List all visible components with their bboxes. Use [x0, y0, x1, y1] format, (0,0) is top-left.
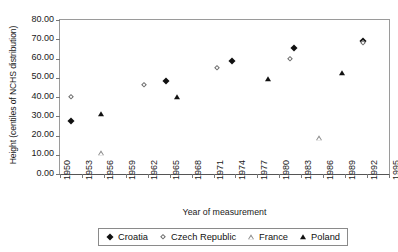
x-axis-label: 1977: [260, 160, 269, 180]
x-axis-tick: [367, 174, 368, 178]
data-point-poland: [98, 112, 104, 117]
x-axis-label: 1983: [304, 160, 313, 180]
x-axis-label: 1953: [85, 160, 94, 180]
y-axis-tick: [56, 155, 60, 156]
y-axis-tick: [56, 20, 60, 21]
data-point-poland: [339, 70, 345, 75]
data-point-czech-republic: [141, 82, 147, 88]
x-axis-tick: [345, 174, 346, 178]
x-axis-label: 1986: [326, 160, 335, 180]
x-axis-label: 1956: [106, 160, 115, 180]
y-axis-label: 80.00: [10, 15, 54, 24]
x-axis-label: 1995: [392, 160, 398, 180]
y-axis-label: 0.00: [10, 169, 54, 178]
x-axis-title: Year of measurement: [59, 207, 390, 217]
x-axis-label: 1989: [348, 160, 357, 180]
x-axis-label: 1962: [150, 160, 159, 180]
x-axis-label: 1968: [194, 160, 203, 180]
triangle-open-marker-icon: [248, 234, 254, 239]
y-axis-tick: [56, 136, 60, 137]
x-axis-tick: [60, 174, 61, 178]
y-axis-label: 10.00: [10, 149, 54, 158]
legend-entry-france[interactable]: France: [247, 232, 288, 242]
y-axis-label: 20.00: [10, 130, 54, 139]
legend-entry-poland[interactable]: Poland: [299, 232, 340, 242]
data-point-croatia: [290, 44, 297, 51]
legend-label: Czech Republic: [171, 232, 236, 242]
x-axis-label: 1980: [282, 160, 291, 180]
x-axis-label: 1992: [370, 160, 379, 180]
data-point-czech-republic: [287, 56, 293, 62]
legend-label: Croatia: [118, 232, 148, 242]
x-axis-tick: [389, 174, 390, 178]
y-axis-tick: [56, 116, 60, 117]
data-point-croatia: [228, 58, 235, 65]
y-axis-tick: [56, 39, 60, 40]
y-axis-label: 70.00: [10, 34, 54, 43]
y-axis-tick: [56, 78, 60, 79]
x-axis-tick: [82, 174, 83, 178]
scatter-chart: Height (centiles of NCHS distribution) Y…: [0, 0, 398, 252]
legend-label: Poland: [311, 232, 340, 242]
data-point-czech-republic: [68, 94, 74, 100]
legend-entry-croatia[interactable]: Croatia: [106, 232, 148, 242]
x-axis-label: 1971: [216, 160, 225, 180]
data-point-france: [316, 136, 322, 141]
x-axis-label: 1965: [172, 160, 181, 180]
data-point-croatia: [67, 118, 74, 125]
chart-legend: CroatiaCzech RepublicFrancePoland: [98, 228, 348, 246]
legend-entry-czech-republic[interactable]: Czech Republic: [159, 232, 236, 242]
data-point-czech-republic: [214, 65, 220, 71]
data-point-poland: [174, 94, 180, 99]
data-point-poland: [265, 76, 271, 81]
legend-swatch: [159, 233, 167, 242]
y-axis-label: 40.00: [10, 92, 54, 101]
y-axis-tick: [56, 97, 60, 98]
data-point-croatia: [162, 77, 169, 84]
legend-swatch: [299, 233, 307, 242]
diamond-filled-marker-icon: [106, 233, 113, 240]
x-axis-label: 1974: [238, 160, 247, 180]
data-point-france: [98, 150, 104, 155]
y-axis-label: 60.00: [10, 53, 54, 62]
legend-swatch: [247, 233, 255, 242]
y-axis-tick: [56, 59, 60, 60]
legend-swatch: [106, 233, 114, 242]
diamond-open-marker-icon: [160, 234, 166, 240]
legend-label: France: [259, 232, 288, 242]
plot-area: [59, 19, 390, 175]
plot-inner: [60, 20, 389, 174]
y-axis-label: 30.00: [10, 111, 54, 120]
x-axis-label: 1959: [128, 160, 137, 180]
x-axis-label: 1950: [63, 160, 72, 180]
y-axis-label: 50.00: [10, 72, 54, 81]
triangle-filled-marker-icon: [300, 234, 306, 239]
